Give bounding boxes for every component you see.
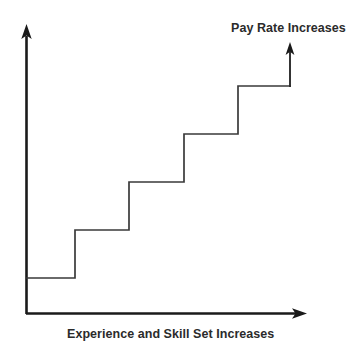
staircase-step-path [27,86,290,278]
diagram-canvas [0,0,354,353]
y-axis-label: Pay Rate Increases [231,21,346,35]
x-axis-label: Experience and Skill Set Increases [67,327,274,341]
staircase-diagram: Pay Rate Increases Experience and Skill … [0,0,354,353]
